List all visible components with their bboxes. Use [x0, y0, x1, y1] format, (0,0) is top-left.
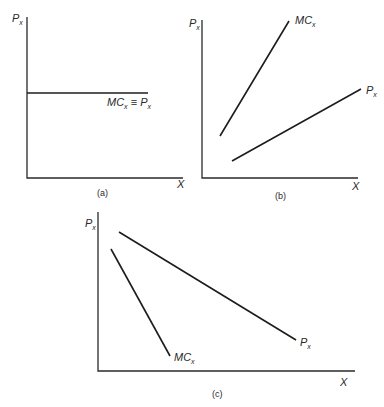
panel-a-caption: (a) — [97, 188, 108, 198]
panel-b: Px X MCx Px (b) — [189, 14, 377, 201]
panel-c: Px X MCx Px (c) — [85, 212, 355, 399]
panel-a-y-axis-label: Px — [12, 12, 23, 26]
panel-b-price-line — [232, 89, 361, 161]
panel-b-mc-line — [220, 21, 289, 136]
panel-c-x-axis-label: X — [339, 376, 348, 388]
panel-b-y-axis-label: Px — [189, 17, 200, 31]
panel-a-x-axis-label: X — [176, 178, 185, 190]
panel-b-mc-label: MCx — [295, 14, 316, 28]
panel-c-price-label: Px — [300, 336, 311, 350]
figure-canvas: Px X MCx ≡ Px (a) Px X MCx Px (b) Px X M… — [0, 0, 384, 407]
panel-a: Px X MCx ≡ Px (a) — [12, 12, 185, 198]
panel-a-curve-label: MCx ≡ Px — [107, 96, 152, 110]
panel-c-axes — [98, 212, 355, 371]
panel-c-y-axis-label: Px — [85, 217, 96, 231]
panel-c-caption: (c) — [212, 389, 223, 399]
panel-a-axes — [27, 17, 183, 178]
panel-b-axes — [202, 20, 358, 178]
panel-c-mc-label: MCx — [174, 351, 195, 365]
panel-b-price-label: Px — [366, 84, 377, 98]
panel-b-x-axis-label: X — [351, 180, 360, 192]
panel-c-price-line — [119, 232, 296, 340]
panel-b-caption: (b) — [275, 191, 286, 201]
panel-c-mc-line — [111, 249, 170, 356]
